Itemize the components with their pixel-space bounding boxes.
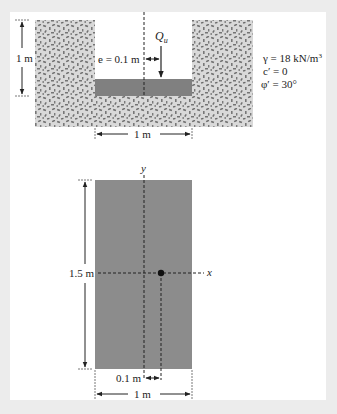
cohesion-label: c′ = 0	[263, 65, 288, 77]
load-label: Qu	[155, 29, 168, 45]
y-axis-label: y	[140, 162, 146, 174]
eccentricity-label: e = 0.1 m	[98, 53, 140, 65]
friction-angle-label: φ′ = 30°	[261, 78, 297, 90]
width-label: 1 m	[134, 128, 151, 140]
length-label: 1.5 m	[69, 267, 95, 279]
load-point-icon	[158, 270, 164, 276]
section-view: Qu e = 0.1 m 1 m 1 m	[15, 12, 253, 140]
depth-label: 1 m	[16, 52, 33, 64]
x-axis-label: x	[206, 266, 212, 278]
soil-properties: γ = 18 kN/m3 c′ = 0 φ′ = 30°	[261, 52, 322, 90]
plan-eccentricity-label: 0.1 m	[116, 372, 142, 384]
plan-view: y x 1.5 m 0.1 m 1 m	[69, 162, 212, 400]
footing-diagram: Qu e = 0.1 m 1 m 1 m γ = 18 kN/m3 c′ = 0…	[0, 0, 337, 414]
unit-weight-label: γ = 18 kN/m3	[262, 52, 322, 64]
plan-width-label: 1 m	[134, 388, 151, 400]
